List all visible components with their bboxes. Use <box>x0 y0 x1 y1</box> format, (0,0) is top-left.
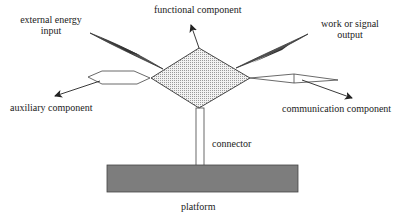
label-functional-component: functional component <box>154 4 241 15</box>
label-auxiliary-component: auxiliary component <box>10 102 92 113</box>
label-external-energy-input: external energy input <box>16 14 86 36</box>
label-work-output-line2: output <box>315 29 385 40</box>
external-energy-input-shape <box>90 33 163 69</box>
connector-shape <box>196 108 204 166</box>
label-external-energy-line2: input <box>16 25 86 36</box>
label-communication-component: communication component <box>282 103 391 114</box>
platform-shape <box>107 165 298 192</box>
communication-component-shape <box>250 74 338 83</box>
label-external-energy-line1: external energy <box>16 14 86 25</box>
functional-component-shape <box>151 48 250 108</box>
label-work-output-line1: work or signal <box>315 18 385 29</box>
label-work-signal-output: work or signal output <box>315 18 385 40</box>
work-output-shape <box>236 34 308 68</box>
label-connector: connector <box>212 138 251 149</box>
diagram-canvas: functional component external energy inp… <box>0 0 403 216</box>
label-platform: platform <box>181 201 215 212</box>
